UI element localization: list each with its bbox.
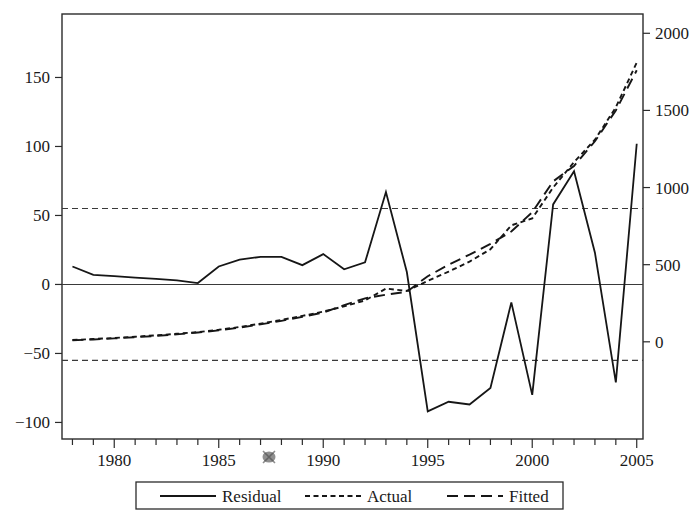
- series-line-actual: [72, 63, 636, 340]
- series-line-fitted: [72, 70, 636, 340]
- left-tick-label: −100: [15, 413, 50, 432]
- x-tick-label: 1995: [411, 451, 445, 470]
- series-line-residual: [72, 144, 636, 412]
- right-tick-label: 2000: [655, 24, 689, 43]
- gridlines: [62, 209, 643, 361]
- plot-border: [62, 14, 643, 439]
- x-axis-ticks: [72, 439, 636, 448]
- x-tick-label: 1980: [97, 451, 131, 470]
- left-tick-label: 100: [25, 137, 51, 156]
- x-tick-label: 2005: [620, 451, 654, 470]
- chart-canvas: −100−50050100150 0500100015002000 198019…: [0, 0, 698, 511]
- legend-item-residual[interactable]: Residual: [160, 487, 282, 506]
- left-tick-label: 150: [25, 68, 51, 87]
- chart-legend: ResidualActualFitted: [136, 482, 563, 509]
- right-tick-label: 1500: [655, 101, 689, 120]
- left-axis-ticks: [55, 77, 62, 422]
- left-tick-label: 0: [42, 275, 51, 294]
- left-axis-labels: −100−50050100150: [15, 68, 50, 432]
- legend-label: Residual: [222, 487, 282, 506]
- right-tick-label: 0: [655, 333, 664, 352]
- right-tick-label: 500: [655, 256, 681, 275]
- legend-item-actual[interactable]: Actual: [305, 487, 413, 506]
- legend-label: Fitted: [509, 487, 549, 506]
- x-tick-label: 2000: [515, 451, 549, 470]
- legend-item-fitted[interactable]: Fitted: [447, 487, 549, 506]
- x-tick-label: 1990: [306, 451, 340, 470]
- right-tick-label: 1000: [655, 179, 689, 198]
- data-series: [72, 63, 636, 412]
- left-tick-label: −50: [23, 344, 50, 363]
- x-axis-labels: 198019851990199520002005: [97, 451, 653, 470]
- x-tick-label: 1985: [202, 451, 236, 470]
- right-axis-labels: 0500100015002000: [655, 24, 689, 352]
- scan-artifact: [263, 451, 276, 463]
- plot-frame: [62, 14, 643, 439]
- right-axis-ticks: [643, 33, 650, 342]
- legend-label: Actual: [367, 487, 413, 506]
- legend-items: ResidualActualFitted: [160, 487, 549, 506]
- chart-container: −100−50050100150 0500100015002000 198019…: [0, 0, 698, 511]
- left-tick-label: 50: [33, 206, 50, 225]
